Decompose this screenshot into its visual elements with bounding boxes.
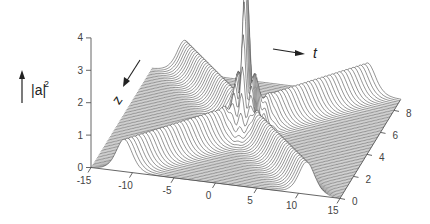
z-tick-label: 4	[379, 152, 385, 163]
t-tick	[130, 173, 133, 178]
t-tick-label: -15	[77, 175, 92, 186]
z-tick-label: 6	[393, 130, 399, 141]
vertical-tick-label: 2	[77, 97, 83, 108]
amplitude-label-group: |a| 2	[19, 70, 49, 103]
z-arrow-icon	[126, 60, 140, 82]
t-arrow-icon	[273, 49, 298, 53]
t-tick	[88, 168, 91, 173]
z-tick	[354, 176, 359, 177]
t-tick-label: 10	[286, 200, 298, 211]
vertical-tick-label: 0	[77, 162, 83, 173]
t-tick-label: 15	[327, 205, 339, 216]
amplitude-arrowhead-icon	[19, 70, 25, 79]
t-tick-label: -10	[118, 180, 133, 191]
z-tick	[381, 132, 386, 133]
t-tick-label: -5	[163, 185, 172, 196]
vertical-tick-label: 3	[77, 65, 83, 76]
t-tick	[213, 183, 216, 188]
z-tick-label: 0	[352, 196, 358, 207]
t-tick	[296, 193, 299, 198]
surface-mesh	[91, 0, 401, 198]
t-tick-label: 5	[247, 195, 253, 206]
z-arrowhead-icon	[123, 77, 130, 87]
t-direction-group: t	[273, 45, 318, 61]
amplitude-label-superscript: 2	[44, 79, 49, 89]
t-label: t	[313, 45, 318, 61]
z-tick	[340, 198, 345, 199]
z-label: z	[108, 92, 125, 107]
vertical-tick-label: 1	[77, 130, 83, 141]
t-tick	[171, 178, 174, 183]
z-tick	[367, 154, 372, 155]
t-arrowhead-icon	[295, 50, 305, 56]
z-tick-label: 8	[406, 108, 412, 119]
t-tick	[337, 198, 340, 203]
vertical-tick-label: 4	[77, 32, 83, 43]
surface-plot: 01234-15-10-505101502468 |a| 2 z t	[0, 0, 430, 224]
z-tick-label: 2	[366, 174, 372, 185]
t-tick-label: 0	[206, 190, 212, 201]
z-tick	[394, 110, 399, 111]
t-tick	[254, 188, 257, 193]
